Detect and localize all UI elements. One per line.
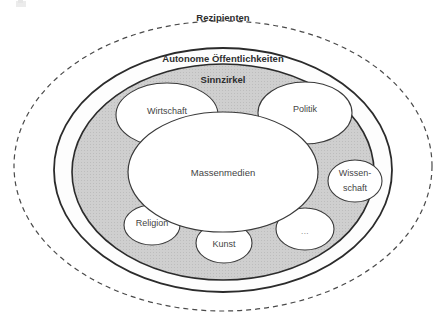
node-wissenschaft-shape[interactable] — [328, 160, 382, 202]
node-label-wirtschaft: Wirtschaft — [147, 106, 188, 116]
band-label-sinnzirkel: Sinnzirkel — [201, 74, 246, 85]
node-label-religion: Religion — [136, 218, 169, 228]
node-label-wissenschaft-line2: schaft — [343, 183, 368, 193]
node-label-wissenschaft-line1: Wissen- — [339, 168, 372, 178]
node-label-politik: Politik — [293, 104, 318, 114]
scan-artifact — [16, 0, 26, 7]
diagram-canvas: Rezipienten Autonome Öffentlichkeiten Si… — [0, 0, 446, 321]
band-label-autonome-oeffentlichkeiten: Autonome Öffentlichkeiten — [162, 53, 284, 64]
sinnzirkel-diagram: Rezipienten Autonome Öffentlichkeiten Si… — [0, 0, 446, 321]
node-label-weitere: ... — [301, 227, 309, 236]
node-label-kunst: Kunst — [212, 239, 236, 249]
core-label-massenmedien: Massenmedien — [191, 167, 255, 178]
band-label-rezipienten: Rezipienten — [196, 12, 250, 23]
